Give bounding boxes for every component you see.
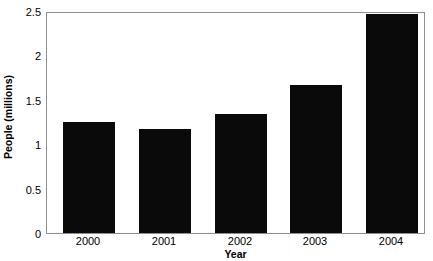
y-axis-title-text: People (millions) xyxy=(2,74,14,158)
y-tick-label: 0 xyxy=(35,229,41,240)
x-tick-label: 2001 xyxy=(152,236,176,247)
bar xyxy=(63,122,115,233)
x-axis-title: Year xyxy=(46,249,425,260)
bar xyxy=(290,85,342,233)
bar-chart: People (millions) 00.511.522.5 200020012… xyxy=(0,0,433,261)
plot-area xyxy=(46,12,425,234)
bar xyxy=(366,14,418,233)
y-axis-tick-labels: 00.511.522.5 xyxy=(14,0,45,261)
y-tick-label: 2 xyxy=(35,51,41,62)
y-tick-label: 1 xyxy=(35,140,41,151)
y-tick-label: 1.5 xyxy=(26,95,41,106)
y-tick-label: 0.5 xyxy=(26,184,41,195)
y-tick-label: 2.5 xyxy=(26,7,41,18)
bar xyxy=(139,129,191,233)
x-tick-label: 2000 xyxy=(76,236,100,247)
x-tick-label: 2003 xyxy=(303,236,327,247)
x-tick-label: 2002 xyxy=(228,236,252,247)
bar xyxy=(215,114,267,233)
x-tick-label: 2004 xyxy=(379,236,403,247)
